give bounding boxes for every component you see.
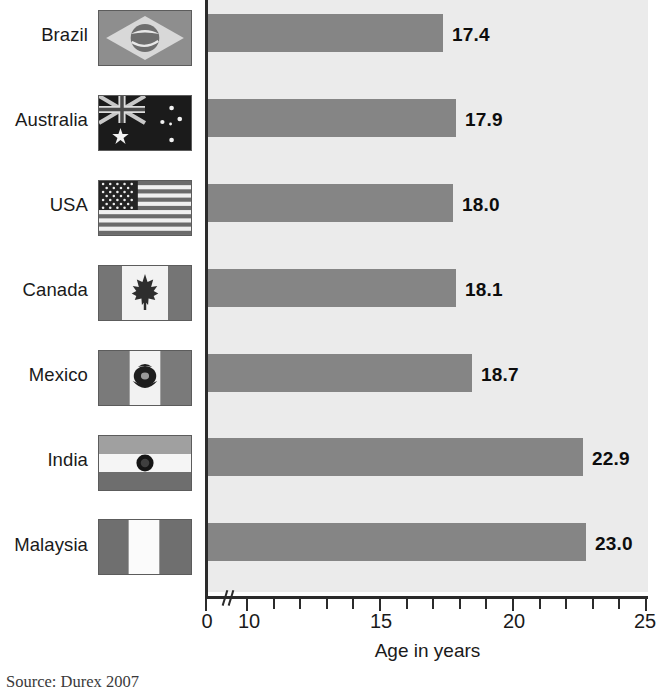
- category-label-brazil: Brazil: [0, 24, 88, 46]
- category-label-india: India: [0, 449, 88, 471]
- flag-mexico-icon: [98, 350, 192, 406]
- category-label-usa: USA: [0, 194, 88, 216]
- x-tick-19: [485, 598, 487, 609]
- flag-india-icon: [98, 435, 192, 491]
- category-label-mexico: Mexico: [0, 364, 88, 386]
- x-tick-23: [592, 598, 594, 609]
- x-axis-line: [205, 596, 648, 599]
- x-tick-13: [326, 598, 328, 609]
- value-label-india: 22.9: [592, 448, 630, 470]
- flag-malaysia-icon: [98, 519, 192, 575]
- value-label-usa: 18.0: [462, 194, 500, 216]
- category-label-canada: Canada: [0, 279, 88, 301]
- x-tick-17: [432, 598, 434, 609]
- value-label-canada: 18.1: [465, 279, 503, 301]
- flag-usa-icon: [98, 180, 192, 236]
- value-label-australia: 17.9: [465, 109, 503, 131]
- x-tick-18: [459, 598, 461, 609]
- x-tick-label-15: 15: [351, 610, 411, 633]
- bar-brazil: [207, 14, 443, 52]
- bar-mexico: [207, 354, 472, 392]
- value-label-mexico: 18.7: [481, 364, 519, 386]
- x-tick-label-25: 25: [615, 610, 656, 633]
- x-tick-11: [273, 598, 275, 609]
- flag-canada-icon: [98, 265, 192, 321]
- bar-canada: [207, 269, 456, 307]
- x-tick-label-10: 10: [219, 610, 279, 633]
- source-note: Source: Durex 2007: [6, 672, 139, 691]
- bar-india: [207, 438, 583, 476]
- x-tick-14: [352, 598, 354, 609]
- x-tick-12: [299, 598, 301, 609]
- x-tick-22: [565, 598, 567, 609]
- x-tick-24: [618, 598, 620, 609]
- bar-usa: [207, 184, 453, 222]
- y-axis-line: [205, 0, 208, 597]
- bar-australia: [207, 99, 456, 137]
- x-tick-label-20: 20: [484, 610, 544, 633]
- category-label-malaysia: Malaysia: [0, 534, 88, 556]
- x-tick-16: [406, 598, 408, 609]
- value-label-brazil: 17.4: [452, 24, 490, 46]
- x-axis-title: Age in years: [207, 640, 648, 662]
- bar-malaysia: [207, 523, 586, 561]
- value-label-malaysia: 23.0: [595, 533, 633, 555]
- flag-brazil-icon: [98, 10, 192, 66]
- plot-area: [207, 0, 648, 592]
- axis-break-marker: [222, 590, 238, 606]
- x-tick-21: [539, 598, 541, 609]
- flag-australia-icon: [98, 95, 192, 151]
- category-label-australia: Australia: [0, 109, 88, 131]
